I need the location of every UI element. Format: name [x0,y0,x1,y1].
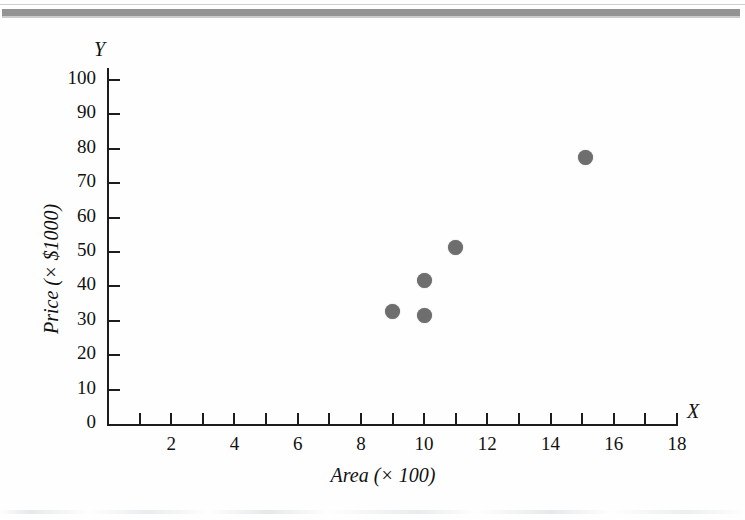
y-axis-tick-label: 90 [30,101,96,123]
y-axis-line [107,68,109,425]
y-axis-tick [109,79,120,81]
scatter-plot: Y X Area (× 100) Price (× $1000) 0102030… [0,0,745,520]
x-axis-tick-label: 16 [584,433,644,455]
x-axis-tick [455,413,457,424]
x-axis-tick-label: 8 [331,433,391,455]
x-axis-tick-label: 10 [394,433,454,455]
y-axis-tick [109,354,120,356]
x-axis-tick [328,413,330,424]
x-axis-tick [202,413,204,424]
y-axis-tick [109,320,120,322]
x-axis-tick [297,413,299,424]
y-axis-tick-label: 100 [30,67,96,89]
x-axis-tick [392,413,394,424]
y-axis-tick-label: 40 [30,273,96,295]
data-point [448,240,463,255]
x-axis-tick [581,413,583,424]
x-axis-tick [550,413,552,424]
y-axis-tick [109,113,120,115]
y-axis-tick-label: 50 [30,239,96,261]
x-axis-tick-label: 2 [141,433,201,455]
x-axis-tick [613,413,615,424]
x-axis-tick [676,413,678,424]
x-axis-tick [265,413,267,424]
x-axis-tick-label: 6 [268,433,328,455]
y-axis-tick-label: 30 [30,308,96,330]
x-axis-title: Area (× 100) [331,464,436,487]
y-axis-tick [109,148,120,150]
data-point [578,150,593,165]
y-axis-variable-label: Y [94,38,105,61]
y-axis-tick-label: 60 [30,205,96,227]
y-axis-tick [109,389,120,391]
y-axis-tick-label: 70 [30,170,96,192]
y-axis-tick [109,217,120,219]
data-point [417,308,432,323]
y-axis-tick [109,182,120,184]
x-axis-tick [486,413,488,424]
x-axis-variable-label: X [687,400,699,423]
y-axis-tick-label: 10 [30,377,96,399]
y-axis-tick [109,285,120,287]
y-axis-tick-label: 0 [30,411,96,433]
x-axis-tick-label: 4 [204,433,264,455]
x-axis-line [107,424,678,426]
x-axis-tick-label: 14 [521,433,581,455]
x-axis-tick-label: 18 [647,433,707,455]
x-axis-tick [518,413,520,424]
x-axis-tick [170,413,172,424]
y-axis-tick-label: 20 [30,342,96,364]
x-axis-tick [139,413,141,424]
x-axis-tick [360,413,362,424]
figure-page: e s Y X Area (× 100) Price (× $1000) 010… [0,0,745,520]
data-point [385,304,400,319]
y-axis-tick [109,251,120,253]
x-axis-tick [644,413,646,424]
x-axis-tick [423,413,425,424]
y-axis-tick-label: 80 [30,136,96,158]
data-point [417,273,432,288]
scan-artifact [0,510,745,514]
x-axis-tick [233,413,235,424]
x-axis-tick-label: 12 [457,433,517,455]
